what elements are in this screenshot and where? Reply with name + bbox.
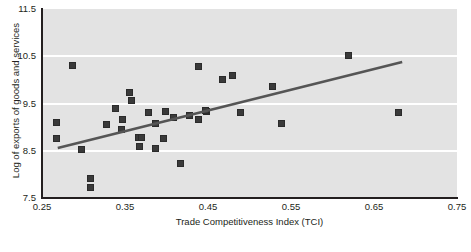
- y-axis-line: [41, 8, 43, 199]
- data-point: [170, 114, 177, 121]
- data-point: [395, 109, 402, 116]
- data-point: [103, 121, 110, 128]
- y-axis-title-wrap: Log of exports of goods and services: [0, 0, 14, 210]
- data-point: [177, 160, 184, 167]
- data-point: [145, 109, 152, 116]
- x-tick-label: 0.35: [105, 201, 145, 212]
- data-point: [195, 63, 202, 70]
- data-point: [136, 143, 143, 150]
- gridline-10.5: [42, 55, 457, 57]
- data-point: [269, 83, 276, 90]
- data-point: [119, 116, 126, 123]
- data-point: [87, 184, 94, 191]
- data-point: [219, 76, 226, 83]
- scatter-chart-figure: 11.510.59.58.57.5 0.250.350.450.550.650.…: [0, 0, 471, 252]
- data-point: [87, 175, 94, 182]
- data-point: [128, 97, 135, 104]
- data-point: [229, 72, 236, 79]
- x-tick-label: 0.75: [437, 201, 471, 212]
- data-point: [160, 135, 167, 142]
- x-axis-title: Trade Competitiveness Index (TCI): [42, 216, 457, 227]
- data-point: [195, 116, 202, 123]
- gridline-9.5: [42, 103, 457, 105]
- data-point: [112, 105, 119, 112]
- x-tick-label: 0.25: [22, 201, 62, 212]
- data-point: [345, 52, 352, 59]
- data-point: [162, 108, 169, 115]
- x-axis-line: [41, 197, 458, 199]
- data-point: [202, 107, 209, 114]
- data-point: [186, 112, 193, 119]
- data-point: [118, 126, 125, 133]
- gridline-8.5: [42, 150, 457, 152]
- data-point: [152, 145, 159, 152]
- data-point: [53, 119, 60, 126]
- y-axis-title: Log of exports of goods and services: [10, 1, 21, 201]
- x-tick-label: 0.55: [271, 201, 311, 212]
- data-point: [278, 120, 285, 127]
- data-point: [69, 62, 76, 69]
- data-point: [152, 120, 159, 127]
- data-point: [237, 109, 244, 116]
- data-point: [78, 146, 85, 153]
- data-point: [126, 89, 133, 96]
- data-point: [53, 135, 60, 142]
- data-point: [138, 134, 145, 141]
- x-tick-label: 0.45: [188, 201, 228, 212]
- x-tick-label: 0.65: [354, 201, 394, 212]
